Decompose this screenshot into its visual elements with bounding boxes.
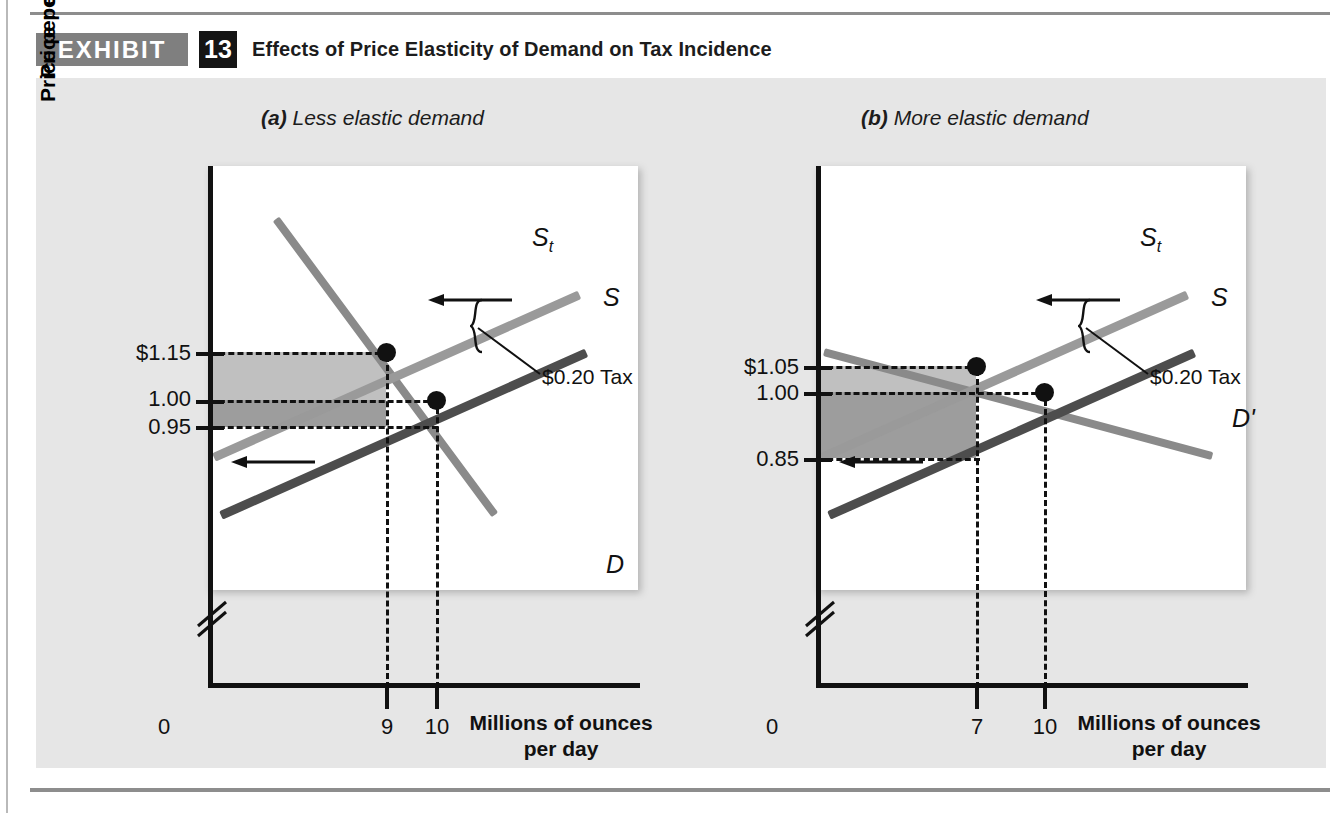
- panel-b-title-text: More elastic demand: [888, 106, 1089, 129]
- panel-a-dash-price-100: [210, 400, 438, 403]
- panel-a-price-label-100: 1.00: [76, 386, 191, 412]
- panel-a-supply-tax-label: St: [532, 223, 553, 256]
- panel-a-x-axis: [208, 683, 640, 688]
- panel-a-price-label-095: 0.95: [76, 414, 191, 440]
- panel-a-x-axis-title: Millions of ounces per day: [461, 710, 661, 763]
- panel-a-price-label-115: $1.15: [76, 340, 191, 366]
- panel-b-ytick-100: [804, 392, 832, 396]
- panel-a-xtick-9: [385, 683, 389, 709]
- page-bottom-rule: [30, 788, 1330, 792]
- panel-b-x-axis: [816, 683, 1248, 688]
- panel-b-title: (b) More elastic demand: [861, 106, 1089, 130]
- panel-b-xtick-10: [1043, 683, 1047, 709]
- panel-a-origin-label: 0: [158, 714, 170, 740]
- panel-a-ytick-095: [196, 426, 224, 430]
- panel-a-supply-label: S: [603, 283, 620, 312]
- panel-b-shift-arrow-lower-icon: [839, 452, 925, 472]
- panel-b-dash-qty-7: [976, 370, 979, 688]
- panel-b-supply-tax-label: St: [1140, 223, 1161, 256]
- panel-b-price-label-100: 1.00: [684, 380, 799, 406]
- panel-b-x-axis-title-line2: per day: [1132, 737, 1207, 760]
- panel-a-title-text: Less elastic demand: [287, 106, 484, 129]
- panel-a-x-axis-title-line1: Millions of ounces: [469, 711, 652, 734]
- panel-a-x-axis-title-line2: per day: [524, 737, 599, 760]
- panel-a-dash-qty-9: [386, 356, 389, 688]
- panel-b-dash-price-105: [818, 366, 980, 369]
- panel-b-xtick-label-7: 7: [963, 714, 991, 740]
- panel-a-pre-tax-equilibrium-dot: [427, 391, 446, 410]
- panel-a-axis-break-icon: [196, 594, 230, 640]
- panel-b-post-tax-equilibrium-dot: [967, 357, 986, 376]
- panel-b-xtick-7: [975, 683, 979, 709]
- panel-a-title: (a) Less elastic demand: [261, 106, 484, 130]
- exhibit-title: Effects of Price Elasticity of Demand on…: [252, 38, 772, 61]
- page-top-rule: [30, 12, 1330, 15]
- panel-b-pre-tax-equilibrium-dot: [1035, 383, 1054, 402]
- panel-b-xtick-label-10: 10: [1028, 714, 1062, 740]
- panel-a-tax-label: $0.20 Tax: [542, 365, 633, 389]
- exhibit-page: EXHIBIT 13 Effects of Price Elasticity o…: [0, 0, 1339, 813]
- panel-b-title-prefix: (b): [861, 106, 888, 129]
- figure-panel: (a) Less elastic demand (b) More elastic…: [36, 78, 1326, 768]
- panel-a-dash-price-115: [210, 352, 390, 355]
- panel-a-demand-label: D: [606, 550, 624, 579]
- panel-b-x-axis-title-line1: Millions of ounces: [1077, 711, 1260, 734]
- panel-b-axis-break-icon: [804, 594, 838, 640]
- panel-a-dash-qty-10: [436, 408, 439, 688]
- panel-a-dash-price-095: [210, 426, 438, 429]
- panel-b-ytick-085: [804, 458, 832, 462]
- panel-a-xtick-label-9: 9: [373, 714, 401, 740]
- panel-a-title-prefix: (a): [261, 106, 287, 129]
- panel-a-post-tax-equilibrium-dot: [377, 343, 396, 362]
- panel-b-tax-label: $0.20 Tax: [1150, 365, 1241, 389]
- panel-b-x-axis-title: Millions of ounces per day: [1069, 710, 1269, 763]
- panel-b-ytick-105: [804, 366, 832, 370]
- panel-b-y-axis-title: Price per ounce: [36, 0, 60, 102]
- panel-b-origin-label: 0: [766, 714, 778, 740]
- exhibit-number: 13: [199, 31, 237, 68]
- panel-a-ytick-115: [196, 352, 224, 356]
- panel-b-dash-price-100: [818, 392, 1046, 395]
- panel-b-supply-label: S: [1211, 283, 1228, 312]
- panel-b-demand-label: D': [1232, 404, 1255, 433]
- page-left-rule: [6, 0, 8, 813]
- panel-b-price-label-105: $1.05: [684, 354, 799, 380]
- panel-a-xtick-10: [435, 683, 439, 709]
- panel-a-shift-arrow-lower-icon: [231, 452, 317, 472]
- panel-a-xtick-label-10: 10: [420, 714, 454, 740]
- panel-b-dash-qty-10: [1044, 400, 1047, 688]
- panel-b-price-label-085: 0.85: [684, 446, 799, 472]
- panel-a-ytick-100: [196, 400, 224, 404]
